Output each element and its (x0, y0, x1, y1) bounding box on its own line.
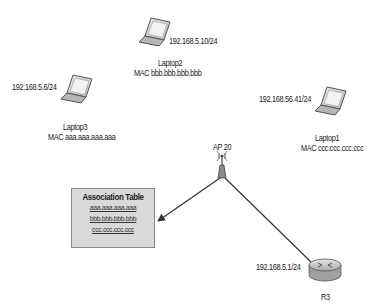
laptop1-icon[interactable] (315, 87, 346, 115)
access-point-icon[interactable] (217, 151, 227, 178)
laptop1-ip-label: 192.168.56.41/24 (259, 94, 311, 104)
laptop2-ip-label: 192.168.5.10/24 (169, 36, 217, 46)
association-table-entry: ccc.ccc.ccc.ccc (78, 224, 149, 235)
association-table-title: Association Table (77, 192, 149, 202)
router-icon[interactable] (309, 259, 341, 281)
link-ap-to-association-table (158, 178, 220, 221)
laptop2-mac-label: MAC bbb.bbb.bbb.bbb (134, 68, 201, 78)
laptop2-icon[interactable] (139, 18, 170, 46)
access-point-label: AP 20 (213, 142, 231, 152)
laptop3-icon[interactable] (61, 75, 92, 103)
laptop3-ip-label: 192.168.5.6/24 (12, 82, 57, 92)
link-ap-to-router (225, 178, 311, 262)
laptop3-mac-label: MAC aaa.aaa.aaa.aaa (48, 132, 115, 142)
router-ip-label: 192.168.5.1/24 (256, 262, 301, 272)
association-table-entry: aaa.aaa.aaa.aaa (78, 202, 149, 213)
router-name-label: R3 (321, 292, 330, 302)
association-table-entry: bbb.bbb.bbb.bbb (78, 213, 149, 224)
laptop3-name-label: Laptop3 (63, 122, 87, 132)
laptop2-name-label: Laptop2 (158, 58, 182, 68)
laptop1-mac-label: MAC ccc.ccc.ccc.ccc (301, 143, 364, 153)
laptop1-name-label: Laptop1 (315, 133, 339, 143)
association-table: Association Table aaa.aaa.aaa.aaa bbb.bb… (71, 188, 155, 248)
